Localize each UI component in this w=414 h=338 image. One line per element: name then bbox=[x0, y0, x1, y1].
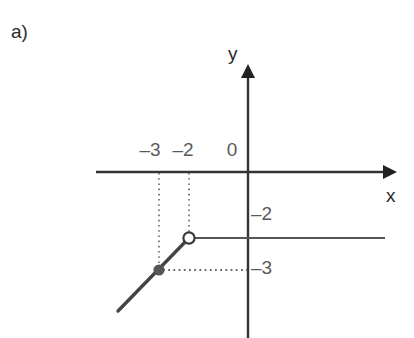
open-point-marker bbox=[183, 232, 194, 243]
x-axis-arrowhead bbox=[383, 165, 397, 179]
x-tick-label-zero: 0 bbox=[221, 140, 243, 159]
filled-point-marker bbox=[153, 264, 164, 275]
x-tick-label-neg3: –3 bbox=[137, 140, 163, 159]
coordinate-plane-svg bbox=[0, 0, 414, 338]
x-tick-label-neg2: –2 bbox=[170, 140, 196, 159]
figure-panel: a) y x –3 –2 0 –2 –3 bbox=[0, 0, 414, 338]
y-tick-label-neg3: –3 bbox=[251, 258, 272, 277]
slanted-segment bbox=[118, 238, 189, 311]
y-tick-label-neg2: –2 bbox=[251, 204, 272, 223]
x-axis bbox=[96, 165, 397, 179]
y-axis bbox=[241, 64, 255, 338]
y-axis-arrowhead bbox=[241, 64, 255, 78]
axis-label-y: y bbox=[228, 44, 238, 63]
panel-label: a) bbox=[11, 22, 28, 41]
axis-label-x: x bbox=[386, 186, 396, 205]
